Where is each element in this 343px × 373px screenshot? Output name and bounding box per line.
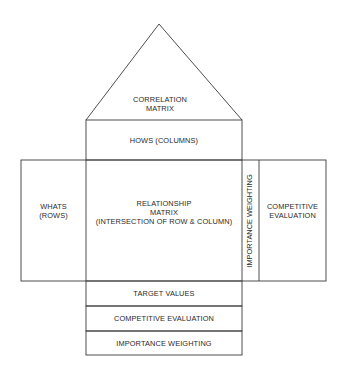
roof-line2: MATRIX <box>146 104 174 113</box>
competitive-bottom-text: COMPETITIVE EVALUATION <box>114 314 214 323</box>
target-values-label: TARGET VALUES <box>86 281 242 306</box>
importance-weighting-bottom-label: IMPORTANCE WEIGHTING <box>86 331 242 355</box>
target-values-text: TARGET VALUES <box>133 289 194 298</box>
importance-weighting-vertical-label: IMPORTANCE WEIGHTING <box>245 171 255 271</box>
relationship-matrix-label: RELATIONSHIP MATRIX (INTERSECTION OF ROW… <box>86 197 242 227</box>
importance-bottom-text: IMPORTANCE WEIGHTING <box>116 339 211 348</box>
whats-label: WHATS (ROWS) <box>21 200 86 222</box>
competitive-evaluation-bottom-label: COMPETITIVE EVALUATION <box>86 306 242 331</box>
whats-line1: WHATS <box>40 202 67 211</box>
relationship-line1: RELATIONSHIP <box>137 199 192 208</box>
hows-text: HOWS (COLUMNS) <box>130 136 198 145</box>
competitive-right-line1: COMPETITIVE <box>267 202 318 211</box>
relationship-line2: MATRIX <box>150 208 178 217</box>
competitive-evaluation-right-label: COMPETITIVE EVALUATION <box>259 200 326 222</box>
competitive-right-line2: EVALUATION <box>269 211 316 220</box>
relationship-line3: (INTERSECTION OF ROW & COLUMN) <box>96 217 232 226</box>
roof-line1: CORRELATION <box>133 95 187 104</box>
correlation-matrix-label: CORRELATION MATRIX <box>110 93 210 115</box>
hows-label: HOWS (COLUMNS) <box>86 132 242 148</box>
whats-line2: (ROWS) <box>39 211 68 220</box>
